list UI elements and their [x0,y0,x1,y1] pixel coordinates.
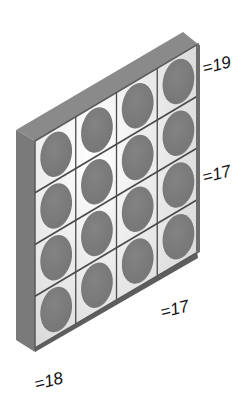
label-bottom-left: =18 [32,368,65,394]
label-top-row: =19 [200,52,233,78]
frame-side-face [16,130,35,352]
frame-right-edge [196,44,200,254]
label-bottom-edge: =17 [158,296,191,322]
grid-diagram: =19 =17 =17 =18 [0,0,251,417]
label-right-column: =17 [200,161,233,187]
